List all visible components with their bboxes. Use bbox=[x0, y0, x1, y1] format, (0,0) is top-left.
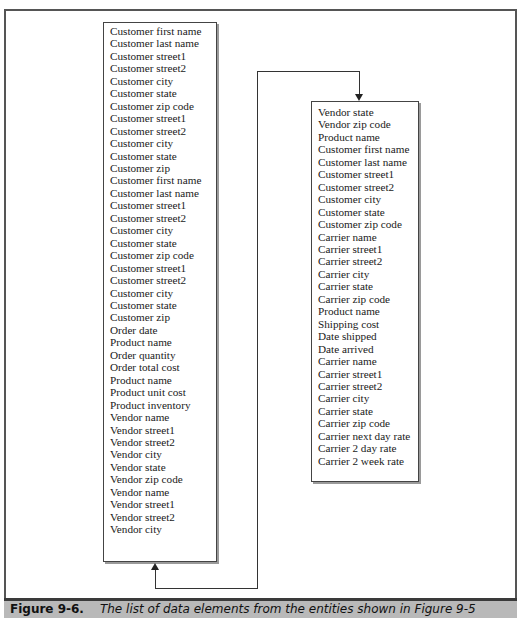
arrow-up-icon bbox=[151, 563, 159, 570]
data-element-item: Customer zip code bbox=[318, 218, 412, 230]
connector-line-bottom-horizontal bbox=[155, 588, 258, 589]
data-element-item: Customer street2 bbox=[110, 274, 210, 286]
data-element-item: Carrier street1 bbox=[318, 368, 412, 380]
connector-line-bottom-vertical-left bbox=[155, 569, 156, 589]
data-element-item: Customer street2 bbox=[110, 62, 210, 74]
data-element-item: Vendor state bbox=[110, 461, 210, 473]
data-element-item: Carrier name bbox=[318, 231, 412, 243]
connector-line-middle-vertical bbox=[257, 71, 258, 589]
data-element-item: Vendor city bbox=[110, 523, 210, 535]
figure-frame bbox=[4, 9, 517, 599]
connector-line-top-horizontal bbox=[257, 71, 360, 72]
data-element-item: Product name bbox=[110, 374, 210, 386]
data-elements-list-left: Customer first nameCustomer last nameCus… bbox=[103, 22, 217, 562]
data-element-item: Customer street1 bbox=[110, 262, 210, 274]
data-element-item: Shipping cost bbox=[318, 318, 412, 330]
data-element-item: Product unit cost bbox=[110, 386, 210, 398]
data-element-item: Customer city bbox=[110, 287, 210, 299]
data-element-item: Vendor street2 bbox=[110, 436, 210, 448]
data-element-item: Customer state bbox=[110, 150, 210, 162]
data-element-item: Customer zip bbox=[110, 311, 210, 323]
data-elements-list-right: Vendor stateVendor zip codeProduct nameC… bbox=[311, 101, 419, 482]
data-element-item: Customer state bbox=[318, 206, 412, 218]
data-element-item: Customer state bbox=[110, 237, 210, 249]
data-element-item: Customer street1 bbox=[110, 199, 210, 211]
data-element-item: Carrier street2 bbox=[318, 255, 412, 267]
data-element-item: Customer street2 bbox=[110, 125, 210, 137]
connector-line-top-vertical-right bbox=[359, 71, 360, 95]
data-element-item: Date shipped bbox=[318, 330, 412, 342]
data-element-item: Customer state bbox=[110, 87, 210, 99]
data-element-item: Customer last name bbox=[110, 187, 210, 199]
data-element-item: Customer street2 bbox=[318, 181, 412, 193]
data-element-item: Vendor zip code bbox=[110, 473, 210, 485]
data-element-item: Product name bbox=[318, 305, 412, 317]
data-element-item: Carrier 2 week rate bbox=[318, 455, 412, 467]
data-element-item: Customer state bbox=[110, 299, 210, 311]
data-element-item: Customer city bbox=[110, 75, 210, 87]
data-element-item: Customer first name bbox=[318, 143, 412, 155]
data-element-item: Customer city bbox=[110, 137, 210, 149]
data-element-item: Vendor street2 bbox=[110, 511, 210, 523]
data-element-item: Product name bbox=[110, 336, 210, 348]
data-element-item: Customer street1 bbox=[110, 50, 210, 62]
data-element-item: Carrier state bbox=[318, 405, 412, 417]
data-element-item: Order total cost bbox=[110, 361, 210, 373]
figure-caption: Figure 9-6.The list of data elements fro… bbox=[4, 598, 517, 618]
data-element-item: Carrier zip code bbox=[318, 417, 412, 429]
data-element-item: Customer zip code bbox=[110, 100, 210, 112]
data-element-item: Vendor name bbox=[110, 486, 210, 498]
data-element-item: Customer last name bbox=[318, 156, 412, 168]
data-element-item: Carrier street1 bbox=[318, 243, 412, 255]
arrow-down-icon bbox=[355, 94, 363, 101]
data-element-item: Carrier street2 bbox=[318, 380, 412, 392]
data-element-item: Customer first name bbox=[110, 174, 210, 186]
data-element-item: Vendor street1 bbox=[110, 498, 210, 510]
data-element-item: Customer street1 bbox=[318, 168, 412, 180]
data-element-item: Order date bbox=[110, 324, 210, 336]
data-element-item: Order quantity bbox=[110, 349, 210, 361]
data-element-item: Vendor zip code bbox=[318, 118, 412, 130]
data-element-item: Product inventory bbox=[110, 399, 210, 411]
data-element-item: Customer zip code bbox=[110, 249, 210, 261]
data-element-item: Carrier name bbox=[318, 355, 412, 367]
data-element-item: Product name bbox=[318, 131, 412, 143]
data-element-item: Carrier zip code bbox=[318, 293, 412, 305]
data-element-item: Vendor state bbox=[318, 106, 412, 118]
data-element-item: Customer street1 bbox=[110, 112, 210, 124]
data-element-item: Customer zip bbox=[110, 162, 210, 174]
data-element-item: Carrier city bbox=[318, 268, 412, 280]
data-element-item: Carrier next day rate bbox=[318, 430, 412, 442]
data-element-item: Customer last name bbox=[110, 37, 210, 49]
data-element-item: Vendor city bbox=[110, 448, 210, 460]
data-element-item: Customer first name bbox=[110, 25, 210, 37]
data-element-item: Customer street2 bbox=[110, 212, 210, 224]
figure-label: Figure 9-6. bbox=[10, 602, 84, 616]
data-element-item: Customer city bbox=[110, 224, 210, 236]
data-element-item: Carrier 2 day rate bbox=[318, 442, 412, 454]
data-element-item: Carrier city bbox=[318, 392, 412, 404]
data-element-item: Date arrived bbox=[318, 343, 412, 355]
data-element-item: Customer city bbox=[318, 193, 412, 205]
data-element-item: Carrier state bbox=[318, 280, 412, 292]
data-element-item: Vendor name bbox=[110, 411, 210, 423]
data-element-item: Vendor street1 bbox=[110, 424, 210, 436]
figure-caption-text: The list of data elements from the entit… bbox=[100, 602, 476, 616]
